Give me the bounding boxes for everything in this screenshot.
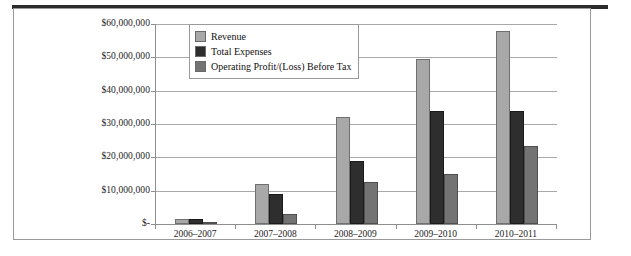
y-axis-tick	[151, 91, 156, 92]
x-axis-tick-label: 2009–2010	[396, 229, 476, 239]
chart-plot-wrapper: $-$10,000,000$20,000,000$30,000,000$40,0…	[0, 0, 631, 256]
legend-item-label: Total Expenses	[211, 47, 272, 57]
bar-group	[416, 24, 458, 224]
x-axis-tick	[556, 224, 557, 229]
y-axis-labels: $-$10,000,000$20,000,000$30,000,000$40,0…	[55, 0, 150, 256]
legend-swatch-profit	[195, 61, 206, 72]
bar-group	[496, 24, 538, 224]
legend-item[interactable]: Operating Profit/(Loss) Before Tax	[195, 59, 351, 74]
y-axis-tick-label: $50,000,000	[101, 51, 150, 61]
bar-profit	[364, 182, 378, 224]
y-axis-tick-label: $40,000,000	[101, 85, 150, 95]
bar-profit	[203, 222, 217, 224]
bar-expenses	[269, 194, 283, 224]
bar-profit	[524, 146, 538, 224]
bar-expenses	[350, 161, 364, 224]
bar-revenue	[175, 219, 189, 224]
y-axis-tick-label: $20,000,000	[101, 151, 150, 161]
x-axis-tick-label: 2008–2009	[315, 229, 395, 239]
legend-swatch-revenue	[195, 31, 206, 42]
legend-item[interactable]: Total Expenses	[195, 44, 351, 59]
bar-expenses	[189, 219, 203, 224]
bar-profit	[283, 214, 297, 224]
y-axis-tick	[151, 191, 156, 192]
figure-container: $-$10,000,000$20,000,000$30,000,000$40,0…	[0, 0, 631, 256]
y-axis-tick-label: $30,000,000	[101, 118, 150, 128]
y-axis-tick-label: $10,000,000	[101, 185, 150, 195]
y-axis-tick	[151, 57, 156, 58]
legend-item-label: Revenue	[211, 32, 246, 42]
x-axis-tick-label: 2010–2011	[476, 229, 556, 239]
x-axis-tick-label: 2006–2007	[155, 229, 235, 239]
y-axis-tick	[151, 157, 156, 158]
bar-revenue	[496, 31, 510, 224]
bar-revenue	[255, 184, 269, 224]
x-axis-tick-label: 2007–2008	[235, 229, 315, 239]
legend-item-label: Operating Profit/(Loss) Before Tax	[211, 62, 351, 72]
y-axis-tick-label: $-	[142, 218, 150, 228]
bar-revenue	[336, 117, 350, 224]
y-axis-tick	[151, 24, 156, 25]
y-axis-tick-label: $60,000,000	[101, 18, 150, 28]
bar-revenue	[416, 59, 430, 224]
bar-expenses	[430, 111, 444, 224]
legend-item[interactable]: Revenue	[195, 29, 351, 44]
chart-legend: RevenueTotal ExpensesOperating Profit/(L…	[189, 24, 359, 79]
y-axis-tick	[151, 124, 156, 125]
bar-profit	[444, 174, 458, 224]
legend-swatch-expenses	[195, 46, 206, 57]
bar-expenses	[510, 111, 524, 224]
